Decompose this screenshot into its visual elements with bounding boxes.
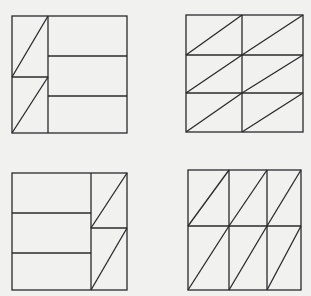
segment (242, 55, 303, 93)
square-outline (186, 15, 303, 132)
figure-top-right (186, 15, 303, 132)
figure-panel (0, 0, 311, 296)
segment (12, 16, 48, 77)
segment (242, 15, 303, 55)
segment (91, 173, 127, 228)
segment (186, 15, 242, 55)
diagram-canvas (0, 0, 311, 296)
segment (229, 170, 267, 226)
segment (267, 170, 301, 226)
segment (186, 55, 242, 93)
figure-bottom-right (188, 170, 301, 290)
square-outline (188, 170, 301, 290)
segment (91, 228, 127, 290)
segment (267, 226, 301, 290)
segment (186, 93, 242, 132)
segment (188, 226, 229, 290)
figure-bottom-left (12, 173, 127, 290)
segment (12, 77, 48, 133)
square-outline (12, 16, 127, 133)
square-outline (12, 173, 127, 290)
segment (188, 170, 229, 226)
figure-top-left (12, 16, 127, 133)
segment (242, 93, 303, 132)
segment (229, 226, 267, 290)
